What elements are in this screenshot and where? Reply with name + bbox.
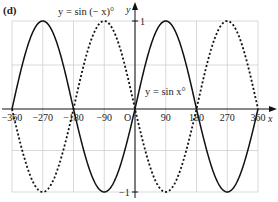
tick-labels: −360−270−180−90901802703601−1 — [2, 16, 266, 198]
y-tick-label: −1 — [119, 187, 130, 198]
sine-graph: −360−270−180−90901802703601−1 (d) y = si… — [0, 0, 278, 202]
x-tick-label: −270 — [32, 112, 53, 123]
y-axis-arrow-icon — [132, 2, 138, 10]
y-tick-label: 1 — [140, 16, 145, 27]
x-axis-arrow-icon — [269, 106, 277, 112]
y-axis-label: y — [125, 4, 131, 15]
x-tick-label: 180 — [189, 112, 204, 123]
x-tick-label: 270 — [220, 112, 235, 123]
x-axis-label: x — [267, 113, 273, 124]
origin-label: O — [124, 112, 131, 123]
panel-label: (d) — [3, 4, 17, 17]
x-tick-label: 360 — [251, 112, 266, 123]
x-tick-label: −180 — [63, 112, 84, 123]
annotation-sin-neg-x: y = sin (− x)° — [58, 6, 114, 18]
x-tick-label: 90 — [161, 112, 171, 123]
x-tick-label: −90 — [96, 112, 112, 123]
annotation-sin-x: y = sin x° — [145, 86, 186, 97]
x-tick-label: −360 — [2, 112, 23, 123]
axes — [2, 2, 277, 198]
